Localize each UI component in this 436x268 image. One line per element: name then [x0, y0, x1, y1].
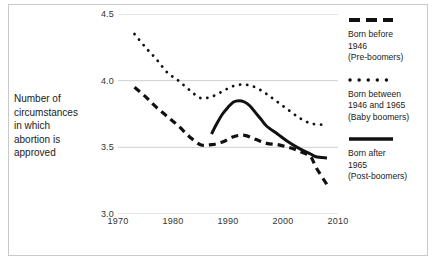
solid-line-marker [348, 135, 424, 145]
y-axis-title-line: Number of [14, 92, 114, 106]
y-axis-title-line: abortion is [14, 133, 114, 147]
y-tick-label: 4.0 [101, 76, 114, 86]
plot-area: 4.54.03.53.0 19701980199020002010 [118, 14, 338, 214]
legend-label-line: Born after [348, 148, 424, 160]
legend-label-line: 1965 [348, 160, 424, 172]
series-line [135, 87, 328, 184]
dashed-line-marker [348, 16, 424, 26]
legend-label-line: (Post-boomers) [348, 171, 424, 183]
y-tick-label: 3.5 [101, 142, 114, 152]
x-tick-label: 2000 [273, 216, 294, 226]
series-line [212, 101, 328, 158]
chart-legend: Born before1946(Pre-boomers)Born between… [348, 16, 424, 195]
x-tick-label: 1990 [218, 216, 239, 226]
legend-label-line: (Pre-boomers) [348, 52, 424, 64]
legend-entry[interactable]: Born before1946(Pre-boomers) [348, 16, 424, 64]
legend-label-line: Born before [348, 29, 424, 41]
legend-label-line: Born between [348, 89, 424, 101]
y-axis-title: Number of circumstances in which abortio… [14, 92, 114, 160]
y-axis-title-line: in which [14, 119, 114, 133]
legend-label-line: (Baby boomers) [348, 112, 424, 124]
legend-label-line: 1946 and 1965 [348, 100, 424, 112]
chart-canvas [118, 14, 338, 214]
legend-entry[interactable]: Born between1946 and 1965(Baby boomers) [348, 76, 424, 124]
chart-figure: Number of circumstances in which abortio… [0, 0, 436, 268]
x-tick-label: 2010 [328, 216, 349, 226]
dotted-line-marker [348, 76, 424, 86]
y-tick-label: 4.5 [101, 9, 114, 19]
legend-entry[interactable]: Born after1965(Post-boomers) [348, 135, 424, 183]
y-axis-title-line: circumstances [14, 106, 114, 120]
x-tick-label: 1980 [163, 216, 184, 226]
x-tick-label: 1970 [108, 216, 129, 226]
y-axis-title-line: approved [14, 146, 114, 160]
legend-label-line: 1946 [348, 41, 424, 53]
